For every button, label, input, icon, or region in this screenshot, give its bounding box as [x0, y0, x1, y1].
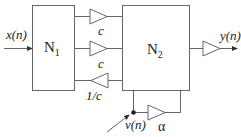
output-gain-triangle	[203, 41, 220, 56]
output-label: y(n)	[220, 29, 241, 42]
gain-label-c-middle: c	[98, 57, 104, 70]
feedback-path	[134, 91, 149, 113]
block-n1-label: N1	[44, 40, 60, 58]
gain-triangle-c-top	[90, 9, 107, 24]
gain-triangle-c-middle	[90, 41, 107, 56]
input-label: x(n)	[6, 28, 27, 41]
gain-label-alpha: α	[158, 120, 165, 134]
block-diagram	[0, 0, 241, 137]
gain-triangle-inverse-c	[91, 73, 108, 88]
block-n2-label: N2	[147, 42, 163, 60]
noise-label: v(n)	[125, 118, 146, 131]
gain-label-inverse-c: 1/c	[86, 89, 102, 102]
summing-junction-dot	[131, 110, 136, 115]
gain-triangle-alpha	[148, 105, 165, 120]
gain-label-c-top: c	[98, 24, 104, 37]
